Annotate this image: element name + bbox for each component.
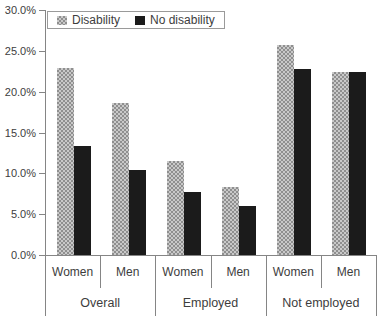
bar-overall-men-disability: [112, 103, 129, 255]
subgroup-divider-line: [100, 255, 101, 288]
bar-not-employed-women-no-disability: [294, 69, 311, 255]
legend-swatch-icon: [57, 16, 67, 25]
y-tick-mark: [39, 214, 45, 215]
y-tick-mark: [39, 173, 45, 174]
bar-employed-women-no-disability: [184, 192, 201, 255]
group-label-not-employed: Not employed: [266, 290, 376, 316]
bar-pair-employed-men: [211, 10, 266, 255]
bar-overall-men-no-disability: [129, 170, 146, 255]
group-label-overall: Overall: [45, 290, 155, 316]
bar-chart-figure: 30.0%25.0%20.0%15.0%10.0%5.0%0.0% Disabi…: [0, 0, 381, 323]
bar-not-employed-men-disability: [332, 72, 349, 255]
y-tick-mark: [39, 51, 45, 52]
legend: DisabilityNo disability: [47, 11, 225, 29]
bar-employed-women-disability: [167, 161, 184, 255]
bar-overall-women-disability: [57, 68, 74, 255]
legend-entry-disability: Disability: [57, 13, 120, 27]
y-tick-mark: [39, 133, 45, 134]
bar-pair-not-employed-women: [266, 10, 321, 255]
bar-employed-men-no-disability: [239, 206, 256, 255]
y-tick-label: 10.0%: [0, 167, 36, 179]
subgroup-label-women: Women: [266, 256, 321, 288]
group-label-employed: Employed: [155, 290, 265, 316]
y-tick-label: 5.0%: [0, 208, 36, 220]
bar-pair-employed-women: [156, 10, 211, 255]
group-divider-line: [155, 255, 156, 316]
y-tick-label: 0.0%: [0, 249, 36, 261]
legend-swatch-icon: [135, 16, 145, 25]
bar-pair-overall-men: [101, 10, 156, 255]
bar-employed-men-disability: [222, 187, 239, 255]
subgroup-label-women: Women: [45, 256, 100, 288]
y-tick-label: 20.0%: [0, 86, 36, 98]
y-tick-label: 25.0%: [0, 45, 36, 57]
bar-not-employed-women-disability: [277, 45, 294, 255]
legend-entry-no-disability: No disability: [135, 13, 215, 27]
subgroup-label-men: Men: [321, 256, 376, 288]
group-divider-line: [266, 255, 267, 316]
subgroup-label-men: Men: [100, 256, 155, 288]
legend-label: Disability: [72, 13, 120, 27]
plot-area: [46, 10, 376, 255]
subgroup-divider-line: [211, 255, 212, 288]
bar-overall-women-no-disability: [74, 146, 91, 255]
legend-label: No disability: [150, 13, 215, 27]
y-tick-label: 15.0%: [0, 127, 36, 139]
x-axis-group-labels: OverallEmployedNot employed: [45, 290, 376, 316]
subgroup-label-men: Men: [211, 256, 266, 288]
y-tick-mark: [39, 92, 45, 93]
y-tick-mark: [39, 10, 45, 11]
bar-not-employed-men-no-disability: [349, 72, 366, 255]
bar-pair-not-employed-men: [321, 10, 376, 255]
bar-pair-overall-women: [46, 10, 101, 255]
subgroup-divider-line: [321, 255, 322, 288]
group-divider-line: [376, 255, 377, 316]
subgroup-label-women: Women: [155, 256, 210, 288]
group-divider-line: [45, 255, 46, 316]
y-tick-label: 30.0%: [0, 4, 36, 16]
